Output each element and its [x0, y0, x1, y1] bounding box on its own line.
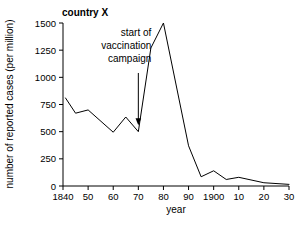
y-tick-label: 1250: [35, 45, 56, 56]
x-tick-label: 30: [284, 191, 295, 202]
y-tick-label: 1000: [35, 72, 56, 83]
y-tick-label: 0: [51, 181, 56, 192]
series-line-reported-cases: [66, 23, 289, 184]
annotation-start-of-vaccination: start of vaccination campaign: [101, 27, 151, 125]
x-tick-label: 90: [183, 191, 194, 202]
x-tick-label: 70: [133, 191, 144, 202]
y-tick-label: 500: [40, 126, 56, 137]
y-tick-label: 750: [40, 99, 56, 110]
y-tick-label: 250: [40, 153, 56, 164]
x-tick-label: 1900: [203, 191, 224, 202]
x-axis-label: year: [166, 204, 186, 215]
annotation-line-3: campaign: [108, 53, 151, 64]
y-axis-label: number of reported cases (per million): [4, 20, 15, 189]
chart-title: country X: [62, 7, 108, 18]
x-axis-ticks: 184050607080901900102030: [52, 186, 294, 202]
x-tick-label: 60: [108, 191, 119, 202]
x-tick-label: 1840: [52, 191, 73, 202]
chart-figure: country X number of reported cases (per …: [0, 0, 307, 231]
y-axis-ticks: 0250500750100012501500: [35, 18, 63, 192]
x-tick-label: 20: [259, 191, 270, 202]
line-chart-svg: country X number of reported cases (per …: [0, 0, 307, 231]
annotation-line-1: start of: [121, 27, 152, 38]
y-tick-label: 1500: [35, 18, 56, 29]
x-tick-label: 10: [233, 191, 244, 202]
x-tick-label: 50: [83, 191, 94, 202]
annotation-line-2: vaccination: [101, 40, 151, 51]
x-tick-label: 80: [158, 191, 169, 202]
